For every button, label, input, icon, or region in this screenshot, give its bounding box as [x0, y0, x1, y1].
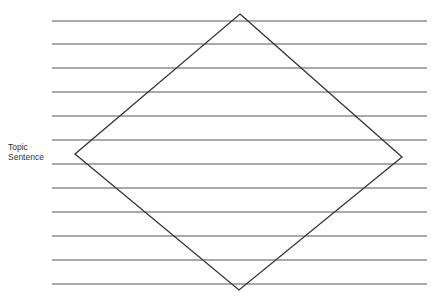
- paragraph-diamond-diagram: [0, 0, 437, 301]
- ruled-lines: [52, 21, 427, 284]
- diamond-shape: [75, 14, 402, 290]
